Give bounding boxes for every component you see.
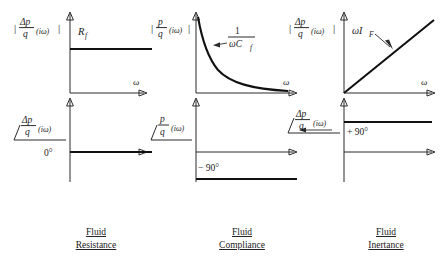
phase-ylabel-argument: (iω)	[38, 125, 52, 134]
magnitude-curve-label-omega-if: ωI F	[352, 25, 374, 39]
magnitude-ylabel-denominator: q	[298, 29, 303, 39]
phase-y-axis-label-resistance: Δp q (iω)	[14, 115, 66, 140]
phase-ylabel-denominator: q	[299, 121, 304, 131]
magnitude-x-axis-label-omega: ω	[133, 77, 139, 87]
phase-plot-resistance: Δp q (iω) 0°	[14, 98, 152, 182]
magnitude-x-axis-label-omega: ω	[283, 77, 289, 87]
phase-ylabel-numerator: Δp	[21, 115, 33, 125]
curve-label-denominator: ωC	[229, 39, 243, 49]
curve-label-subscript: F	[368, 30, 374, 39]
curve-leader-arrowhead-icon	[385, 40, 393, 50]
phase-value-label-plus90deg: + 90°	[347, 127, 368, 137]
magnitude-x-axis-label-omega: ω	[421, 77, 427, 87]
magnitude-y-axis-label-compliance: | p q (iω) |	[151, 17, 190, 39]
phase-ylabel-numerator: p	[159, 114, 165, 124]
phase-y-axis-label-inertance: Δp q (iω)	[288, 109, 340, 133]
magnitude-ylabel-numerator: p	[157, 17, 163, 27]
phase-ylabel-argument: (iω)	[171, 124, 185, 133]
phase-y-axis-label-compliance: p q (iω)	[151, 114, 192, 140]
curve-label-numerator: 1	[235, 26, 240, 36]
magnitude-bar-left: |	[289, 22, 291, 34]
magnitude-ylabel-denominator: q	[158, 29, 163, 39]
caption-line2: Inertance	[368, 240, 403, 250]
magnitude-plot-inertance: | Δp q (iω) | ω ωI F	[289, 12, 435, 96]
caption-line1: Fluid	[376, 227, 396, 237]
magnitude-bar-right: |	[333, 22, 335, 34]
magnitude-curve-hyperbolic	[198, 17, 288, 91]
curve-label-R: R	[77, 26, 85, 37]
phase-ylabel-numerator: Δp	[295, 109, 307, 119]
magnitude-plot-resistance: | Δp q (iω) | ω R f	[14, 12, 152, 96]
panel-fluid-compliance: | p q (iω) | ω 1 ωC f	[151, 12, 297, 250]
magnitude-ylabel-argument: (iω)	[169, 26, 183, 35]
phase-plot-compliance: p q (iω) − 90°	[151, 98, 297, 182]
magnitude-bar-left: |	[151, 22, 153, 34]
phase-value-label-minus90deg: − 90°	[198, 163, 219, 173]
magnitude-plot-compliance: | p q (iω) | ω 1 ωC f	[151, 12, 297, 96]
curve-leader-arrowhead-icon	[213, 42, 220, 47]
phase-value-label-0deg: 0°	[44, 148, 53, 158]
panel-fluid-resistance: | Δp q (iω) | ω R f	[14, 12, 152, 250]
magnitude-curve-label-one-over-omega-cf: 1 ωC f	[228, 26, 255, 52]
phase-ylabel-denominator: q	[25, 127, 30, 137]
curve-label-denominator-subscript: f	[250, 43, 253, 52]
caption-line2: Compliance	[219, 240, 265, 250]
magnitude-ylabel-argument: (iω)	[36, 27, 50, 36]
bode-plot-figure: | Δp q (iω) | ω R f	[0, 0, 444, 267]
caption-line1: Fluid	[232, 227, 252, 237]
panel-fluid-inertance: | Δp q (iω) | ω ωI F	[288, 12, 435, 250]
magnitude-y-axis-label-inertance: | Δp q (iω) |	[289, 17, 335, 39]
figure-svg: | Δp q (iω) | ω R f	[0, 0, 444, 267]
magnitude-ylabel-numerator: Δp	[294, 17, 306, 27]
caption-line1: Fluid	[86, 227, 106, 237]
curve-label-R-subscript: f	[85, 31, 88, 40]
phase-ylabel-argument: (iω)	[313, 119, 327, 128]
magnitude-bar-left: |	[14, 22, 16, 34]
caption-line2: Resistance	[76, 240, 117, 250]
magnitude-bar-right: |	[188, 22, 190, 34]
magnitude-y-axis-label-resistance: | Δp q (iω) |	[14, 17, 60, 39]
magnitude-ylabel-argument: (iω)	[311, 27, 325, 36]
caption-fluid-resistance: Fluid Resistance	[76, 227, 117, 250]
phase-ylabel-denominator: q	[160, 127, 165, 137]
caption-fluid-compliance: Fluid Compliance	[219, 227, 265, 250]
magnitude-ylabel-numerator: Δp	[19, 17, 31, 27]
phase-plot-inertance: Δp q (iω) + 90°	[288, 98, 435, 182]
caption-fluid-inertance: Fluid Inertance	[368, 227, 403, 250]
magnitude-bar-right: |	[58, 22, 60, 34]
magnitude-ylabel-denominator: q	[23, 29, 28, 39]
curve-label-omega-I: ωI	[352, 25, 363, 36]
magnitude-curve-label-rf: R f	[77, 26, 88, 40]
